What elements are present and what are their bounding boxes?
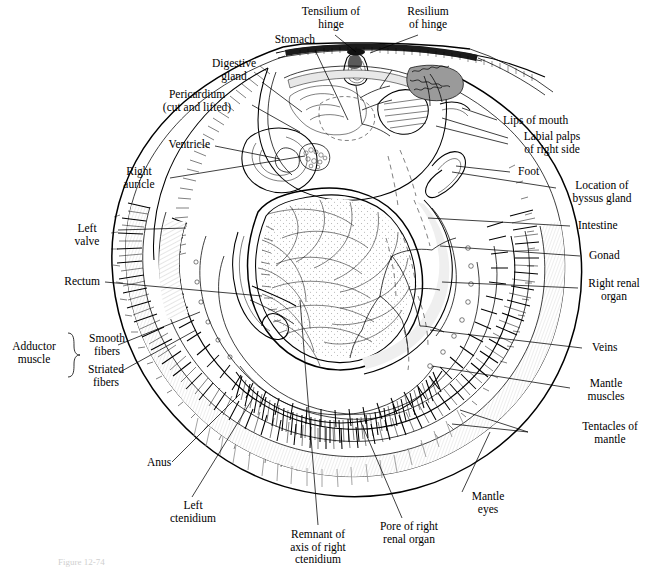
label-foot: Foot [518, 165, 566, 178]
label-mantle-eyes: Mantle eyes [461, 490, 515, 515]
label-gonad: Gonad [589, 249, 643, 262]
label-pore-of-right-renal-organ: Pore of right renal organ [367, 520, 451, 545]
label-striated-fibers: Striated fibers [76, 363, 136, 388]
label-tensilium-of-hinge: Tensilium of hinge [283, 5, 379, 30]
label-rectum: Rectum [28, 275, 100, 288]
label-left-valve: Left valve [58, 222, 116, 247]
label-anus: Anus [147, 456, 203, 469]
adductor-muscle-shape [233, 188, 423, 370]
pericardium-flap [242, 128, 330, 193]
label-tentacles-of-mantle: Tentacles of mantle [574, 420, 646, 445]
label-mantle-muscles: Mantle muscles [578, 377, 634, 402]
label-location-of-byssus-gland: Location of byssus gland [556, 179, 648, 204]
label-digestive-gland: Digestive gland [195, 57, 273, 82]
label-remnant-of-axis: Remnant of axis of right ctenidium [272, 528, 364, 566]
label-right-renal-organ: Right renal organ [581, 277, 647, 302]
digestive-gland-shape [289, 85, 366, 134]
figure-caption: Figure 12-74 [58, 557, 105, 567]
label-right-auricle: Right auricle [108, 165, 170, 190]
label-resilium-of-hinge: Resilium of hinge [382, 5, 474, 30]
label-veins: Veins [592, 341, 642, 354]
label-left-ctenidium: Left ctenidium [163, 499, 223, 524]
foot-shape [426, 152, 466, 198]
label-stomach: Stomach [210, 33, 315, 46]
label-labial-palps: Labial palps of right side [508, 130, 596, 155]
label-lips-of-mouth: Lips of mouth [503, 114, 593, 127]
label-smooth-fibers: Smooth fibers [78, 332, 136, 357]
label-intestine: Intestine [578, 219, 640, 232]
label-adductor-muscle: Adductor muscle [2, 340, 66, 365]
label-pericardium: Pericardium (cut and lifted) [142, 88, 252, 113]
resilium-knob [344, 49, 368, 86]
label-ventricle: Ventricle [110, 138, 210, 151]
